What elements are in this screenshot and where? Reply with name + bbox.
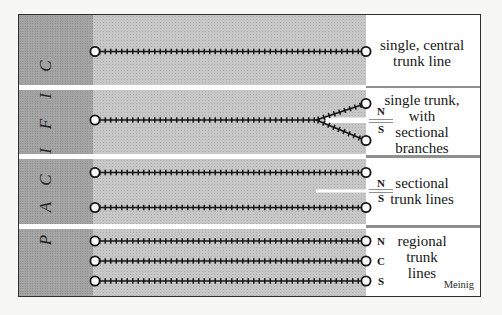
sectional-gap-line: [316, 190, 367, 193]
label-line: trunk: [368, 249, 476, 265]
pacific-letter: C: [35, 53, 57, 79]
label-line: sectional: [368, 124, 476, 140]
section-label-regional: regional trunk lines: [368, 233, 476, 281]
attribution: Meinig: [444, 279, 474, 290]
branch-south: [316, 120, 366, 141]
endpoint-circle: [90, 276, 99, 285]
endpoint-circle: [90, 47, 99, 56]
label-line: trunk line: [368, 53, 476, 69]
label-line: single, central: [368, 37, 476, 53]
endpoint-circle: [90, 115, 99, 124]
label-line: regional: [368, 233, 476, 249]
label-line: trunk lines: [368, 191, 476, 207]
label-line: sectional: [368, 175, 476, 191]
trunk-line-sectional-north: [90, 168, 370, 177]
label-line: branches: [368, 140, 476, 156]
trunk-line-regional-central: [90, 256, 370, 265]
endpoint-circle: [90, 236, 99, 245]
pacific-letter: P: [35, 227, 57, 253]
label-line: single trunk,: [368, 92, 476, 108]
label-line: with: [368, 108, 476, 124]
trunk-line-single-central: [90, 47, 370, 56]
pacific-letter: I: [35, 138, 57, 164]
trunk-line-sectional-south: [90, 203, 370, 212]
pacific-letter: A: [35, 194, 57, 220]
pacific-letter: I: [35, 83, 57, 109]
endpoint-circle: [90, 203, 99, 212]
section-label-sectional: sectional trunk lines: [368, 175, 476, 207]
pacific-letter: F: [35, 111, 57, 137]
section-label-single-central: single, central trunk line: [368, 37, 476, 69]
endpoint-circle: [90, 168, 99, 177]
branch-gap-notch: [326, 118, 367, 124]
section-label-single-trunk-branches: single trunk, with sectional branches: [368, 92, 476, 156]
scanned-page: C I F I C A P N S N S N C S single, cent…: [0, 0, 502, 315]
endpoint-circle: [90, 256, 99, 265]
trunk-line-regional-south: [90, 276, 370, 285]
pacific-letter: C: [35, 167, 57, 193]
trunk-line-regional-north: [90, 236, 370, 245]
trunk-lines-diagram: C I F I C A P N S N S N C S single, cent…: [18, 14, 481, 297]
diagram-inner: C I F I C A P N S N S N C S single, cent…: [19, 15, 480, 296]
